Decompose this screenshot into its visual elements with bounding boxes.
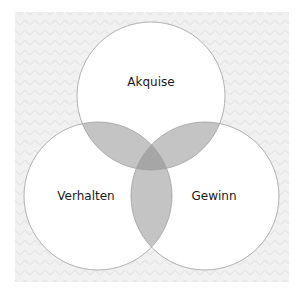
venn-svg: Akquise Verhalten Gewinn bbox=[0, 0, 302, 290]
label-gewinn: Gewinn bbox=[191, 189, 236, 203]
venn-diagram: Akquise Verhalten Gewinn bbox=[0, 0, 302, 290]
label-verhalten: Verhalten bbox=[57, 189, 114, 203]
label-akquise: Akquise bbox=[127, 75, 174, 89]
